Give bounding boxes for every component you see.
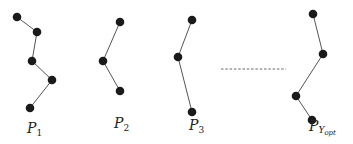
path-p1-node [28,57,37,66]
path-p3: P3 [174,16,205,135]
path-p3-label-main: P [188,117,199,133]
path-pyopt-label-main: P [308,118,319,134]
path-p3-node [188,108,197,117]
path-pyopt-node [319,50,328,59]
path-p2-label-sub: 2 [123,123,129,133]
path-p1-label-sub: 1 [36,128,42,138]
path-p3-node [174,53,183,62]
path-p1-node [13,13,22,22]
path-sequence-diagram: P1 P2 P3 PYopt [0,0,353,144]
path-p3-label-sub: 3 [198,125,204,135]
path-p1: P1 [13,13,57,138]
path-p1-node [33,28,42,37]
path-p1-label-main: P [26,120,37,136]
path-p2-label-main: P [113,115,124,131]
path-p2-node [116,87,125,96]
path-pyopt-node [292,92,301,101]
path-p1-node [26,104,35,113]
path-p1-label: P1 [26,120,42,138]
path-p3-node [188,16,197,25]
path-p2-node [99,57,108,66]
path-p2-node [116,18,125,27]
path-p3-label: P3 [188,117,204,135]
path-pyopt-label-subsub: opt [324,129,336,137]
path-pyopt: PYopt [292,10,336,137]
path-p3-edges [178,20,192,112]
path-p2-edges [103,22,120,91]
path-pyopt-label: PYopt [308,118,336,137]
path-p1-node [48,76,57,85]
path-pyopt-node [309,10,318,19]
path-p2: P2 [99,18,129,133]
path-pyopt-edges [296,14,323,120]
path-p2-label: P2 [113,115,129,133]
